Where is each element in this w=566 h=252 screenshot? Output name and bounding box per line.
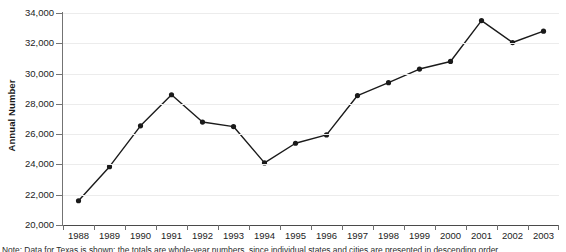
gridline [63, 43, 559, 44]
x-axis-tick-label: 2002 [502, 231, 523, 241]
x-axis-tick [311, 225, 312, 230]
x-axis-tick [373, 225, 374, 230]
x-axis-tick-label: 1998 [378, 231, 399, 241]
x-axis-tick-label: 1996 [316, 231, 337, 241]
y-axis-tick-label: 20,000 [10, 220, 54, 230]
y-axis-tick [56, 43, 62, 44]
x-axis-tick [435, 225, 436, 230]
x-axis-tick [280, 225, 281, 230]
x-axis-tick [63, 225, 64, 230]
x-axis-tick [187, 225, 188, 230]
gridline [63, 13, 559, 14]
y-axis-tick-label: 30,000 [10, 69, 54, 79]
x-axis-tick [528, 225, 529, 230]
gridline [63, 164, 559, 165]
x-axis-tick [94, 225, 95, 230]
x-axis-tick [404, 225, 405, 230]
gridline [63, 74, 559, 75]
gridline [63, 195, 559, 196]
y-axis-tick [56, 195, 62, 196]
data-point-marker [448, 59, 453, 64]
data-point-marker [479, 18, 484, 23]
line-chart-figure: Annual Number 20,00022,00024,00026,00028… [0, 0, 566, 252]
x-axis-tick [218, 225, 219, 230]
data-point-marker [200, 119, 205, 124]
y-axis-tick-labels: 20,00022,00024,00026,00028,00030,00032,0… [4, 0, 54, 252]
data-point-marker [169, 92, 174, 97]
data-series-annual-number [63, 13, 559, 225]
x-axis-tick-label: 1997 [347, 231, 368, 241]
y-axis-tick [56, 74, 62, 75]
x-axis-tick [125, 225, 126, 230]
y-axis-tick-label: 24,000 [10, 160, 54, 170]
y-axis-tick-label: 28,000 [10, 99, 54, 109]
data-point-marker [76, 198, 81, 203]
gridline [63, 104, 559, 105]
data-point-marker [293, 141, 298, 146]
x-axis-tick-label: 1990 [130, 231, 151, 241]
x-axis-tick-label: 2003 [533, 231, 554, 241]
data-point-marker [541, 29, 546, 34]
data-point-marker [355, 93, 360, 98]
y-axis-tick [56, 134, 62, 135]
x-axis-tick-label: 1994 [254, 231, 275, 241]
chart-footnote: Note: Data for Texas is shown; the total… [2, 245, 564, 252]
series-line [79, 21, 544, 201]
plot-area [63, 13, 559, 225]
y-axis-tick-label: 22,000 [10, 190, 54, 200]
x-axis-tick-label: 2000 [440, 231, 461, 241]
y-axis-tick [56, 13, 62, 14]
x-axis-tick-label: 1991 [161, 231, 182, 241]
y-axis-tick [56, 104, 62, 105]
x-axis-tick [497, 225, 498, 230]
x-axis-tick [156, 225, 157, 230]
x-axis-tick-label: 1993 [223, 231, 244, 241]
x-axis-tick-label: 1992 [192, 231, 213, 241]
x-axis-tick-label: 2001 [471, 231, 492, 241]
data-point-marker [231, 124, 236, 129]
x-axis-tick-label: 1995 [285, 231, 306, 241]
y-axis-tick-label: 32,000 [10, 39, 54, 49]
x-axis-tick [558, 225, 559, 230]
data-point-marker [417, 66, 422, 71]
x-axis-tick-label: 1999 [409, 231, 430, 241]
x-axis-tick-labels: 1988198919901991199219931994199519961997… [63, 231, 559, 245]
data-point-marker [138, 123, 143, 128]
y-axis-tick [56, 164, 62, 165]
y-axis-tick-label: 26,000 [10, 129, 54, 139]
x-axis-tick [466, 225, 467, 230]
x-axis-tick [249, 225, 250, 230]
y-axis-tick-label: 34,000 [10, 8, 54, 18]
data-point-marker [386, 80, 391, 85]
y-axis-tick [56, 225, 62, 226]
x-axis-tick-label: 1988 [68, 231, 89, 241]
gridline [63, 134, 559, 135]
x-axis-tick-label: 1989 [99, 231, 120, 241]
x-axis-tick [342, 225, 343, 230]
